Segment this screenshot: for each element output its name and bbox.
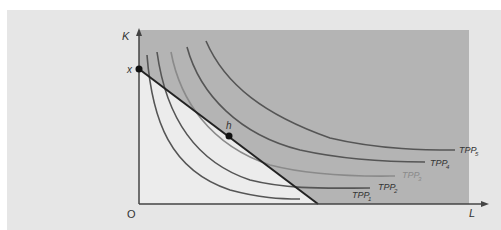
x-intercept-label: x: [126, 64, 133, 75]
svg-text:5: 5: [475, 151, 479, 157]
origin-label: O: [127, 208, 136, 220]
x-intercept-point: [136, 66, 143, 73]
svg-text:2: 2: [393, 188, 398, 194]
svg-text:TPP: TPP: [459, 145, 477, 155]
svg-text:TPP: TPP: [402, 170, 420, 180]
svg-text:TPP: TPP: [430, 158, 448, 168]
x-axis-arrow-icon: [481, 201, 489, 207]
isoquant-diagram: K x h O L TPP 1 TPP 2 TPP 3 TPP 4 TPP 5: [0, 0, 501, 230]
optimum-point-h: [226, 133, 233, 140]
svg-text:1: 1: [368, 196, 371, 202]
svg-text:TPP: TPP: [378, 182, 396, 192]
optimum-label: h: [226, 120, 232, 131]
svg-text:TPP: TPP: [352, 190, 370, 200]
x-axis-label: L: [469, 207, 475, 219]
y-axis-label: K: [122, 30, 130, 42]
